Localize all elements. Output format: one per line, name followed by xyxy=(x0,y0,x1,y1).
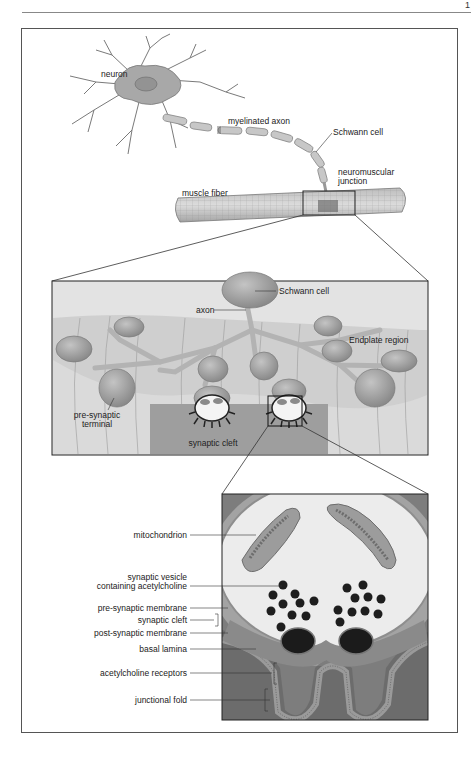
label-muscle-fiber: muscle fiber xyxy=(182,188,228,198)
synapse-detail-panel: mitochondrion synaptic vesicle containin… xyxy=(94,474,444,720)
label-myelinated-axon: myelinated axon xyxy=(228,116,290,126)
label-presynaptic-line2: terminal xyxy=(82,419,112,429)
label-junctional-fold: junctional fold xyxy=(134,695,187,705)
label-vesicle-line2: containing acetylcholine xyxy=(97,581,188,591)
endplate-overview xyxy=(318,200,338,212)
fusing-vesicle-left xyxy=(281,628,315,654)
label-axon: axon xyxy=(196,305,215,315)
label-endplate-region: Endplate region xyxy=(349,335,409,345)
label-synaptic-cleft-detail: synaptic cleft xyxy=(188,438,238,448)
label-schwann-cell-overview: Schwann cell xyxy=(333,127,383,137)
junction-detail-panel: Schwann cell axon Endplate region pre-sy… xyxy=(52,272,428,455)
label-neuron: neuron xyxy=(101,69,128,79)
label-schwann-cell-detail: Schwann cell xyxy=(279,286,329,296)
label-presynaptic-membrane: pre-synaptic membrane xyxy=(98,603,188,613)
label-basal-lamina: basal lamina xyxy=(139,644,187,654)
label-postsynaptic-membrane: post-synaptic membrane xyxy=(94,628,187,638)
fusing-vesicle-right xyxy=(339,628,373,654)
label-nmj-line2: junction xyxy=(337,176,368,186)
neuron-nucleus xyxy=(135,77,157,91)
zoom-lines-1 xyxy=(52,215,428,281)
nmj-figure: neuron myelinated axon Schwann cell neur… xyxy=(0,0,471,774)
neuron-overview: neuron myelinated axon Schwann cell neur… xyxy=(70,34,406,222)
label-synaptic-cleft: synaptic cleft xyxy=(138,615,188,625)
schwann-cell-detail xyxy=(222,272,278,308)
label-mitochondrion: mitochondrion xyxy=(134,530,188,540)
leader-schwann-cell-overview xyxy=(316,133,332,152)
label-ach-receptors: acetylcholine receptors xyxy=(100,668,187,678)
